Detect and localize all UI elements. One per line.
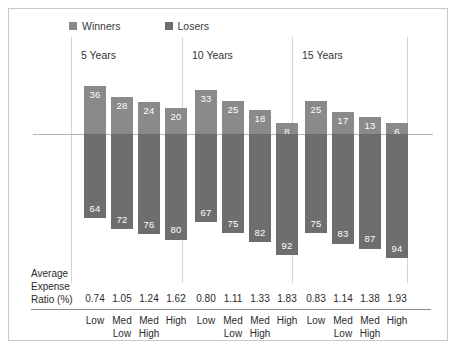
bar-losers: 82: [249, 134, 271, 242]
bar-value-label: 28: [117, 97, 128, 116]
expense-ratio-value: 1.62: [159, 293, 193, 304]
group-title-5-years: 5 Years: [81, 49, 116, 61]
bar-value-label: 36: [90, 86, 101, 105]
bar-winners: 24: [138, 102, 160, 134]
bar-value-label: 25: [311, 101, 322, 120]
bar-value-label: 94: [392, 240, 403, 259]
bar-winners: 25: [222, 101, 244, 134]
group-separator-left: [71, 37, 72, 283]
bar-winners: 33: [195, 90, 217, 134]
bar-value-label: 92: [282, 237, 293, 256]
expense-ratio-caption: Average Expense Ratio (%): [31, 267, 73, 306]
bar-losers: 87: [359, 134, 381, 249]
expense-ratio-value: 1.93: [380, 293, 414, 304]
bar-winners: 17: [332, 112, 354, 134]
bar-losers: 67: [195, 134, 217, 222]
bar-losers: 72: [111, 134, 133, 229]
bar-winners: 36: [84, 86, 106, 134]
bar-value-label: 13: [365, 117, 376, 136]
expense-ratio-caption-line2: Expense: [31, 280, 73, 293]
bar-value-label: 17: [338, 112, 349, 131]
bar-losers: 92: [276, 134, 298, 255]
plot-area: 5 Years 10 Years 15 Years 36642872247620…: [9, 9, 448, 341]
group-title-10-years: 10 Years: [192, 49, 233, 61]
bar-winners: 8: [276, 123, 298, 134]
category-tick-line: [378, 328, 416, 341]
bar-losers: 75: [222, 134, 244, 233]
bar-value-label: 80: [171, 221, 182, 240]
bar-losers: 64: [84, 134, 106, 218]
category-tick-line: High: [378, 315, 416, 328]
category-tick-label: High: [378, 315, 416, 340]
bar-value-label: 20: [171, 108, 182, 127]
bar-winners: 25: [305, 101, 327, 134]
chart-frame: Winners Losers 5 Years 10 Years 15 Years…: [8, 8, 448, 341]
bar-winners: 13: [359, 117, 381, 134]
bar-losers: 80: [165, 134, 187, 240]
group-title-15-years: 15 Years: [302, 49, 343, 61]
bar-value-label: 25: [228, 101, 239, 120]
bar-value-label: 75: [228, 215, 239, 234]
bar-winners: 28: [111, 97, 133, 134]
bar-value-label: 76: [144, 216, 155, 235]
bar-value-label: 18: [255, 110, 266, 129]
expense-ratio-caption-line1: Average: [31, 267, 73, 280]
bar-winners: 18: [249, 110, 271, 134]
bar-value-label: 75: [311, 215, 322, 234]
bar-value-label: 24: [144, 102, 155, 121]
axis-rule: [31, 309, 431, 310]
bar-losers: 83: [332, 134, 354, 244]
bar-winners: 6: [386, 123, 408, 134]
bar-value-label: 83: [338, 225, 349, 244]
bar-winners: 20: [165, 108, 187, 134]
bar-value-label: 87: [365, 230, 376, 249]
bar-value-label: 82: [255, 224, 266, 243]
bar-losers: 94: [386, 134, 408, 258]
bar-value-label: 33: [201, 90, 212, 109]
bar-value-label: 67: [201, 204, 212, 223]
bar-value-label: 72: [117, 211, 128, 230]
bar-losers: 76: [138, 134, 160, 234]
expense-ratio-caption-line3: Ratio (%): [31, 293, 73, 306]
bar-losers: 75: [305, 134, 327, 233]
bar-value-label: 64: [90, 200, 101, 219]
